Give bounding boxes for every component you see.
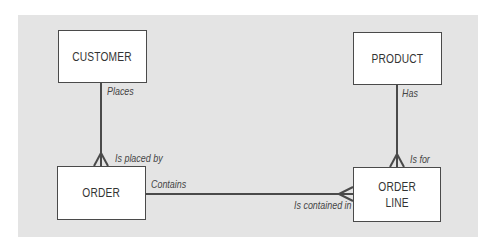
entity-order-line-label: ORDER LINE — [378, 179, 416, 211]
entity-product[interactable]: PRODUCT — [353, 32, 442, 85]
label-is-placed-by: Is placed by — [115, 152, 163, 164]
entity-product-label: PRODUCT — [372, 51, 424, 67]
label-is-contained-in: Is contained in — [294, 199, 352, 211]
label-contains: Contains — [151, 178, 186, 190]
label-is-for: Is for — [410, 153, 430, 165]
label-has: Has — [402, 87, 418, 99]
customer-order-connector — [94, 82, 108, 166]
entity-customer[interactable]: CUSTOMER — [58, 30, 147, 83]
entity-order[interactable]: ORDER — [57, 166, 146, 220]
label-places: Places — [107, 85, 134, 97]
entity-order-label: ORDER — [83, 185, 121, 201]
entity-order-line[interactable]: ORDER LINE — [353, 167, 441, 222]
entity-customer-label: CUSTOMER — [73, 49, 133, 65]
